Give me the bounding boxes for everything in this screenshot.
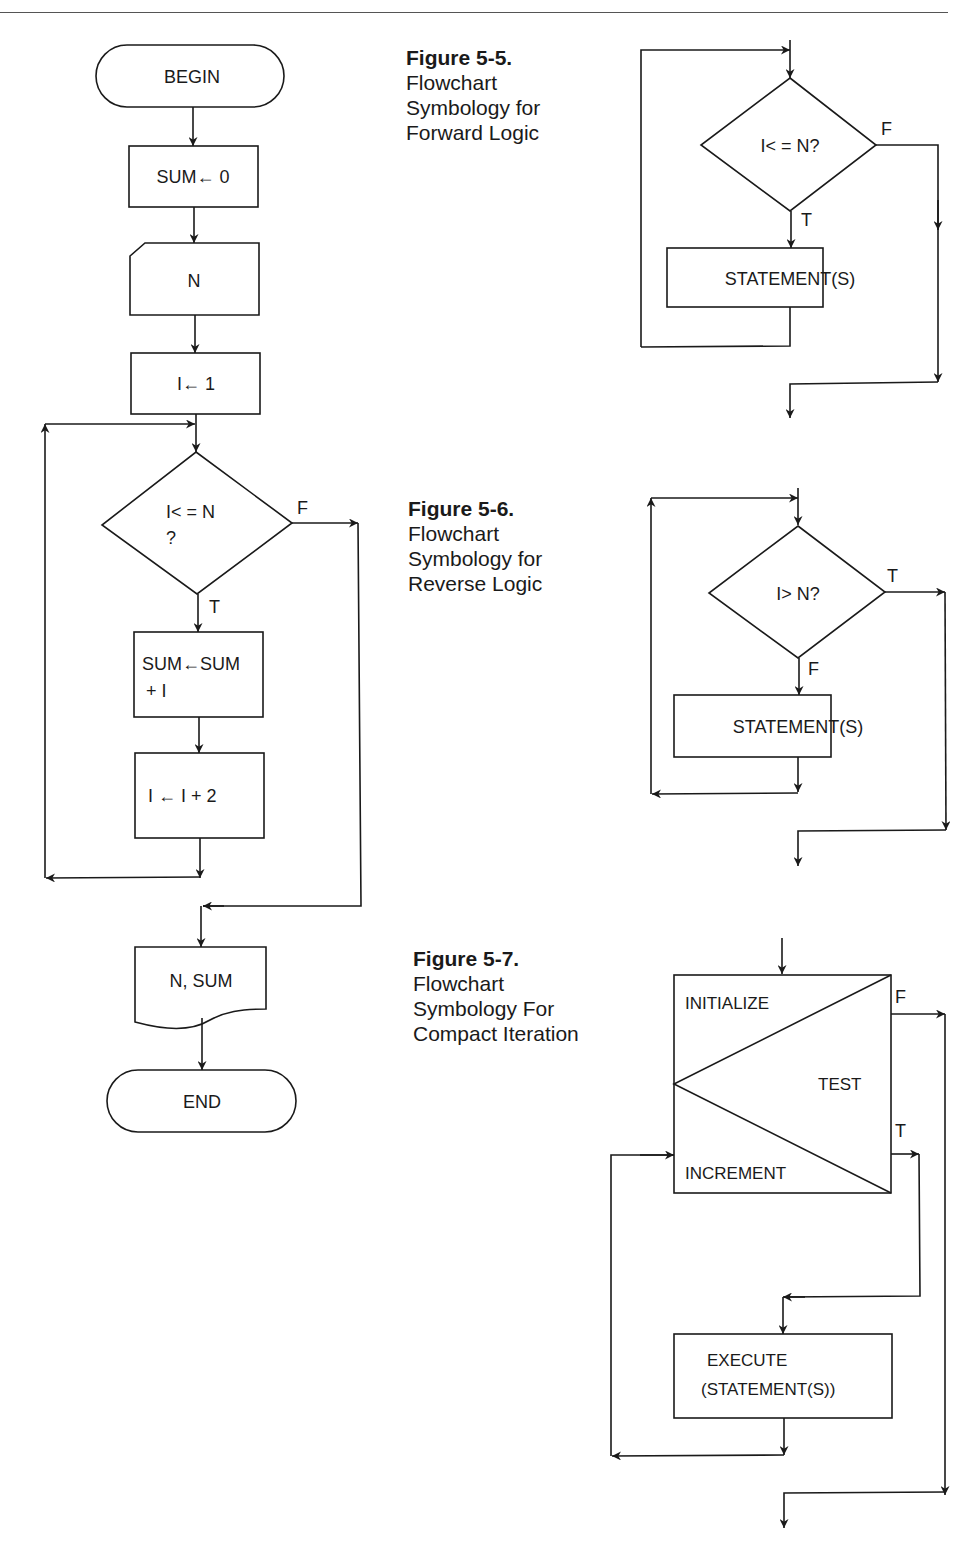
figure-number: Figure 5-6.	[408, 496, 542, 521]
output-label: N, SUM	[170, 971, 233, 991]
decision-label-line1: I< = N	[166, 502, 215, 522]
true-branch-down-arrow	[945, 592, 946, 830]
true-label: T	[209, 597, 220, 617]
sum-update-line2: + I	[146, 681, 167, 701]
execute-label-line2: (STATEMENT(S))	[701, 1380, 835, 1399]
statements-label: STATEMENT(S)	[733, 717, 863, 737]
figure-number: Figure 5-5.	[406, 45, 540, 70]
false-branch-line	[203, 523, 361, 906]
end-label: END	[183, 1092, 221, 1112]
false-label: F	[808, 659, 819, 679]
test-label: TEST	[818, 1075, 861, 1094]
false-branch-line	[876, 145, 938, 230]
increment-label: INCREMENT	[685, 1164, 786, 1183]
figure-5-7-caption: Figure 5-7. Flowchart Symbology For Comp…	[413, 946, 579, 1046]
true-branch-line	[784, 1154, 920, 1297]
begin-label: BEGIN	[164, 67, 220, 87]
init-i-process: I← 1	[131, 353, 260, 414]
main-flowchart: BEGIN SUM← 0 N I← 1 I< = N ? F	[45, 45, 361, 1132]
begin-terminator: BEGIN	[96, 45, 284, 107]
loop-return-arrow	[46, 877, 200, 878]
caption-line: Compact Iteration	[413, 1021, 579, 1046]
figure-number: Figure 5-7.	[413, 946, 579, 971]
init-sum-label: SUM← 0	[156, 167, 229, 187]
caption-line: Forward Logic	[406, 120, 540, 145]
false-label: F	[881, 119, 892, 139]
initialize-label: INITIALIZE	[685, 994, 769, 1013]
sum-update-process: SUM←SUM + I	[134, 632, 263, 717]
exit-arrow	[784, 1492, 945, 1528]
exit-arrow	[790, 382, 938, 418]
end-terminator: END	[107, 1070, 296, 1132]
true-label: T	[887, 566, 898, 586]
loop-back-line	[611, 1155, 674, 1456]
decision-label: I< = N?	[760, 136, 819, 156]
loop-decision: I< = N ?	[102, 452, 292, 594]
init-i-label: I← 1	[177, 374, 215, 394]
execute-label-line1: EXECUTE	[707, 1351, 787, 1370]
loop-return-line	[641, 307, 790, 347]
false-label: F	[895, 987, 906, 1007]
caption-line: Symbology for	[406, 95, 540, 120]
input-n-card: N	[130, 243, 259, 315]
true-label: T	[801, 210, 812, 230]
caption-line: Symbology For	[413, 996, 579, 1021]
execute-process	[674, 1334, 892, 1418]
caption-line: Flowchart	[406, 70, 540, 95]
caption-line: Reverse Logic	[408, 571, 542, 596]
caption-line: Symbology for	[408, 546, 542, 571]
figure-5-5-caption: Figure 5-5. Flowchart Symbology for Forw…	[406, 45, 540, 145]
decision-label: I> N?	[776, 584, 820, 604]
loop-return-arrow	[652, 793, 798, 794]
figure-5-5-diagram: I< = N? F T STATEMENT(S)	[641, 40, 938, 418]
output-document: N, SUM	[135, 947, 266, 1029]
i-update-label: I ← I + 2	[148, 786, 217, 806]
sum-update-line1: SUM←SUM	[142, 654, 240, 674]
decision-label-line2: ?	[166, 528, 176, 548]
init-sum-process: SUM← 0	[129, 146, 258, 207]
statements-label: STATEMENT(S)	[725, 269, 855, 289]
caption-line: Flowchart	[408, 521, 542, 546]
false-label: F	[297, 498, 308, 518]
figure-5-6-diagram: I> N? T F STATEMENT(S)	[651, 488, 946, 866]
exit-arrow	[798, 830, 946, 866]
loop-return-arrow	[612, 1455, 784, 1456]
figure-5-6-caption: Figure 5-6. Flowchart Symbology for Reve…	[408, 496, 542, 596]
i-update-process: I ← I + 2	[135, 753, 264, 838]
input-n-label: N	[188, 271, 201, 291]
caption-line: Flowchart	[413, 971, 579, 996]
figure-5-7-diagram: INITIALIZE TEST INCREMENT F T EXECUTE (S…	[611, 938, 945, 1528]
true-label: T	[895, 1121, 906, 1141]
